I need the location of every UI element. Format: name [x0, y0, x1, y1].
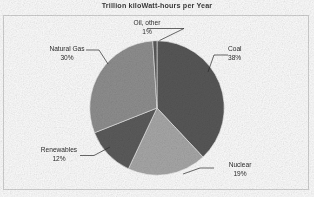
- pie-chart-screenshot: Trillion kiloWatt-hours per Year Coal 38…: [0, 0, 314, 197]
- slice-label-value: 19%: [214, 170, 266, 179]
- slice-label-oil-other: Oil, other 1%: [110, 19, 184, 36]
- slice-label-value: 38%: [228, 54, 274, 63]
- slice-label-nuclear: Nuclear 19%: [214, 161, 266, 178]
- slice-label-coal: Coal 38%: [228, 45, 274, 62]
- slice-label-name: Nuclear: [214, 161, 266, 170]
- slice-label-name: Oil, other: [110, 19, 184, 28]
- slice-label-natural-gas: Natural Gas 30%: [26, 45, 108, 62]
- pie-svg: Coal 38%Nuclear 19%Renewables 12%Natural…: [89, 40, 225, 176]
- slice-label-value: 12%: [20, 155, 98, 164]
- slice-label-name: Coal: [228, 45, 274, 54]
- slice-label-value: 30%: [26, 54, 108, 63]
- chart-title: Trillion kiloWatt-hours per Year: [0, 1, 314, 10]
- pie-chart: Coal 38%Nuclear 19%Renewables 12%Natural…: [89, 40, 225, 176]
- pie-slice-group: Coal 38%Nuclear 19%Renewables 12%Natural…: [90, 41, 224, 175]
- slice-label-value: 1%: [110, 28, 184, 37]
- slice-label-renewables: Renewables 12%: [20, 146, 98, 163]
- slice-label-name: Natural Gas: [26, 45, 108, 54]
- slice-label-name: Renewables: [20, 146, 98, 155]
